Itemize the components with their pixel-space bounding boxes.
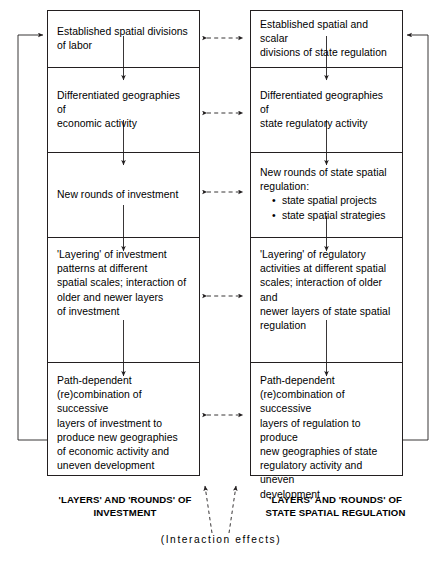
caption-investment: 'LAYERS' AND 'ROUNDS' OF INVESTMENT (30, 494, 220, 519)
column-state-regulation: Established spatial and scalar divisions… (250, 10, 403, 476)
bullet-state-spatial-strategies: state spatial strategies (272, 209, 385, 223)
bullet-state-spatial-projects: state spatial projects (272, 194, 385, 208)
cell-right-2: Differentiated geographies of state regu… (251, 68, 402, 153)
cell-right-1: Established spatial and scalar divisions… (251, 11, 402, 68)
feedback-loop-left (18, 35, 47, 440)
cell-right-4: 'Layering' of regulatory activities at d… (251, 238, 402, 363)
cell-right-5: Path-dependent (re)combination of succes… (251, 363, 402, 475)
cell-right-2-text: Differentiated geographies of state regu… (260, 89, 393, 132)
interaction-effects-label: (Interaction effects) (108, 534, 334, 545)
cell-right-3-text: New rounds of state spatial regulation: (260, 166, 387, 194)
cell-right-4-text: 'Layering' of regulatory activities at d… (260, 248, 393, 333)
cell-left-5: Path-dependent (re)combination of succes… (48, 363, 199, 475)
cell-left-4: 'Layering' of investment patterns at dif… (48, 238, 199, 363)
figure-diagram: Established spatial divisions of labor D… (0, 0, 442, 562)
feedback-loop-right (403, 35, 428, 440)
cell-left-1-text: Established spatial divisions of labor (57, 25, 188, 53)
caption-state-spatial-regulation: 'LAYERS' AND 'ROUNDS' OF STATE SPATIAL R… (238, 494, 433, 519)
column-investment: Established spatial divisions of labor D… (47, 10, 200, 476)
cell-right-3-bullets: state spatial projects state spatial str… (260, 194, 385, 222)
cell-left-5-text: Path-dependent (re)combination of succes… (57, 374, 190, 473)
cell-left-3-text: New rounds of investment (57, 188, 178, 202)
cell-right-1-text: Established spatial and scalar divisions… (260, 18, 393, 61)
cell-right-5-text: Path-dependent (re)combination of succes… (260, 374, 393, 502)
interaction-effect-arrow-right (229, 486, 236, 533)
cell-left-4-text: 'Layering' of investment patterns at dif… (57, 248, 186, 319)
cell-right-3: New rounds of state spatial regulation: … (251, 153, 402, 238)
cell-left-2: Differentiated geographies of economic a… (48, 68, 199, 153)
cell-left-1: Established spatial divisions of labor (48, 11, 199, 68)
cell-left-3: New rounds of investment (48, 153, 199, 238)
cell-left-2-text: Differentiated geographies of economic a… (57, 89, 190, 132)
